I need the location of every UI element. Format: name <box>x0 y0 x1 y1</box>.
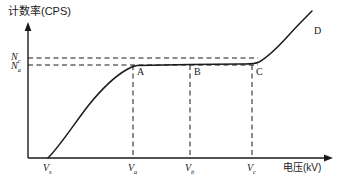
y-axis <box>25 22 32 158</box>
x-tick-label-va: Va <box>128 163 137 176</box>
x-tick-label-vs: Vs <box>43 163 52 176</box>
x-tick-label-vb: Vb <box>185 163 194 176</box>
plot-canvas <box>0 0 344 184</box>
y-axis-title: 计数率(CPS) <box>8 6 71 17</box>
point-label-a: A <box>137 67 144 77</box>
plateau-curve-figure: 计数率(CPS) 电压(kV) Nc Na Vs Va Vb Vc A B C … <box>0 0 344 184</box>
point-label-b: B <box>194 67 201 77</box>
point-label-d: D <box>314 26 321 36</box>
x-axis-title: 电压(kV) <box>283 163 321 173</box>
point-label-c: C <box>256 67 263 77</box>
x-tick-label-vc: Vc <box>247 163 256 176</box>
y-level-label-na: Na <box>11 61 21 74</box>
x-axis <box>28 155 333 162</box>
characteristic-curve <box>48 11 312 158</box>
